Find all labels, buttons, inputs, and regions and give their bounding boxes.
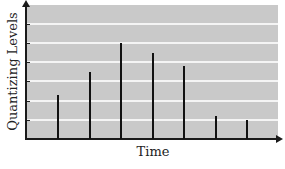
sample-stem xyxy=(89,72,91,139)
sample-stem xyxy=(183,66,185,139)
gridline xyxy=(26,42,278,44)
sample-stem xyxy=(215,116,217,139)
sample-stem xyxy=(152,53,154,139)
x-axis-arrow-icon xyxy=(276,135,283,143)
sample-stem xyxy=(120,43,122,139)
y-axis-label: Quantizing Levels xyxy=(5,12,20,132)
x-axis xyxy=(25,138,277,140)
sample-stem xyxy=(246,120,248,139)
sample-stem xyxy=(57,95,59,139)
y-axis-arrow-icon xyxy=(22,0,30,7)
y-axis xyxy=(25,3,27,140)
gridline xyxy=(26,23,278,25)
x-axis-label: Time xyxy=(123,144,183,159)
